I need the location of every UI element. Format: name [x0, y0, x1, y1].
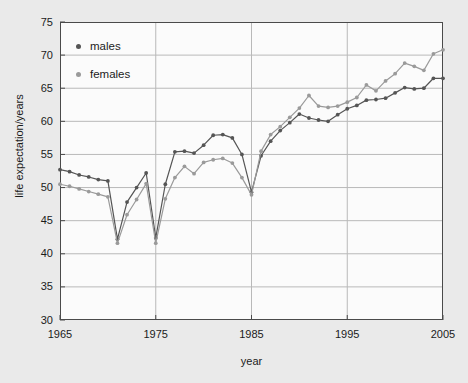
- data-point-females: [297, 106, 301, 110]
- data-point-males: [374, 98, 378, 102]
- data-point-females: [230, 161, 234, 165]
- data-point-males: [422, 86, 426, 90]
- chart-figure: 30354045505560657075 1965197519851995200…: [0, 0, 468, 383]
- data-point-males: [125, 200, 129, 204]
- data-point-females: [345, 100, 349, 104]
- legend-item-males[interactable]: males: [76, 41, 121, 53]
- data-point-males: [345, 107, 349, 111]
- data-point-males: [96, 178, 100, 182]
- data-point-females: [221, 157, 225, 161]
- data-point-males: [336, 113, 340, 117]
- data-point-males: [355, 104, 359, 108]
- data-point-females: [154, 241, 158, 245]
- data-point-females: [288, 115, 292, 119]
- data-point-females: [307, 94, 311, 98]
- data-point-females: [259, 149, 263, 153]
- data-point-females: [77, 187, 81, 191]
- y-axis-title: life expectation/years: [13, 61, 25, 231]
- data-point-females: [87, 190, 91, 194]
- data-point-females: [192, 172, 196, 176]
- data-point-males: [393, 91, 397, 95]
- data-point-females: [336, 104, 340, 108]
- data-point-females: [432, 52, 436, 56]
- x-tick-label: 1965: [35, 329, 85, 340]
- x-tick-label: 1995: [322, 329, 372, 340]
- data-point-males: [297, 112, 301, 116]
- x-axis-title: year: [60, 355, 443, 367]
- data-point-females: [269, 133, 273, 137]
- data-point-males: [441, 76, 445, 80]
- data-point-males: [202, 143, 206, 147]
- data-point-females: [58, 182, 62, 186]
- data-point-males: [307, 116, 311, 120]
- data-point-females: [278, 125, 282, 129]
- data-point-males: [240, 153, 244, 157]
- data-point-females: [202, 160, 206, 164]
- legend-item-females[interactable]: females: [76, 69, 130, 81]
- data-point-males: [403, 86, 407, 90]
- data-point-males: [87, 175, 91, 179]
- data-point-males: [317, 118, 321, 122]
- data-point-males: [135, 186, 139, 190]
- data-point-females: [163, 197, 167, 201]
- data-point-males: [68, 170, 72, 174]
- data-point-females: [355, 96, 359, 100]
- data-point-females: [68, 184, 72, 188]
- data-point-females: [96, 192, 100, 196]
- y-tick-label: 30: [13, 315, 53, 326]
- data-point-females: [135, 198, 139, 202]
- data-point-males: [192, 151, 196, 155]
- data-point-males: [106, 179, 110, 183]
- data-point-females: [250, 193, 254, 197]
- data-point-females: [403, 61, 407, 65]
- data-point-females: [393, 72, 397, 76]
- legend-label: males: [90, 41, 121, 53]
- data-point-males: [211, 133, 215, 137]
- data-point-males: [183, 149, 187, 153]
- data-point-males: [221, 133, 225, 137]
- x-tick-label: 2005: [418, 329, 468, 340]
- legend-marker-icon: [76, 44, 81, 49]
- data-point-males: [365, 98, 369, 102]
- data-point-males: [326, 119, 330, 123]
- y-tick-label: 40: [13, 248, 53, 259]
- data-point-females: [183, 164, 187, 168]
- data-point-females: [144, 182, 148, 186]
- data-point-females: [106, 195, 110, 199]
- data-point-females: [173, 176, 177, 180]
- y-tick-label: 35: [13, 281, 53, 292]
- data-point-males: [144, 171, 148, 175]
- data-point-males: [384, 96, 388, 100]
- data-point-females: [412, 64, 416, 68]
- data-point-males: [432, 76, 436, 80]
- data-point-females: [365, 83, 369, 87]
- data-point-males: [288, 121, 292, 125]
- data-point-males: [163, 182, 167, 186]
- data-point-males: [173, 150, 177, 154]
- data-point-females: [317, 104, 321, 108]
- x-tick-label: 1985: [227, 329, 277, 340]
- data-point-males: [278, 129, 282, 133]
- data-point-males: [269, 139, 273, 143]
- data-point-females: [125, 213, 129, 217]
- legend-label: females: [90, 69, 130, 81]
- y-tick-label: 70: [13, 50, 53, 61]
- data-point-females: [326, 106, 330, 110]
- data-point-males: [58, 168, 62, 172]
- y-tick-label: 75: [13, 17, 53, 28]
- data-point-females: [384, 79, 388, 83]
- data-point-females: [116, 241, 120, 245]
- data-point-males: [412, 87, 416, 91]
- data-point-females: [374, 89, 378, 93]
- x-tick-label: 1975: [131, 329, 181, 340]
- data-point-females: [441, 48, 445, 52]
- data-point-females: [211, 158, 215, 162]
- data-point-females: [240, 176, 244, 180]
- chart-canvas: [0, 0, 468, 383]
- data-point-males: [230, 136, 234, 140]
- data-point-males: [77, 173, 81, 177]
- data-point-females: [422, 68, 426, 72]
- legend-marker-icon: [76, 72, 81, 77]
